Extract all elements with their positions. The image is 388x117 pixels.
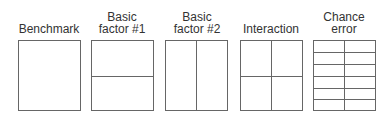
label-chance-error: Chance error xyxy=(304,11,384,35)
row-divider xyxy=(92,76,153,77)
panel-basic-factor-1 xyxy=(91,40,154,111)
column-divider xyxy=(196,41,197,110)
label-text: Benchmark xyxy=(19,22,80,36)
label-interaction: Interaction xyxy=(231,23,311,35)
label-line-2: factor #1 xyxy=(82,23,162,35)
column-divider xyxy=(344,41,345,110)
label-line-2: error xyxy=(304,23,384,35)
label-text: Interaction xyxy=(243,22,299,36)
panel-basic-factor-2 xyxy=(165,40,228,111)
panel-interaction xyxy=(240,40,303,111)
panel-benchmark xyxy=(18,40,81,111)
label-basic-factor-2: Basic factor #2 xyxy=(157,11,237,35)
label-benchmark: Benchmark xyxy=(9,23,89,35)
label-basic-factor-1: Basic factor #1 xyxy=(82,11,162,35)
column-divider xyxy=(271,41,272,110)
panel-chance-error xyxy=(313,40,376,111)
label-line-2: factor #2 xyxy=(157,23,237,35)
